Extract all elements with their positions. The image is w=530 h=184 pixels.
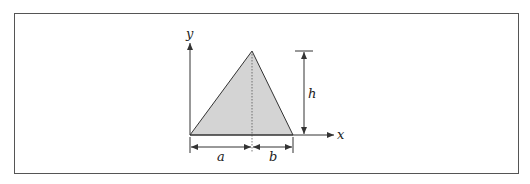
a-label: a: [217, 149, 225, 164]
triangle-shape: [190, 51, 293, 135]
triangle-diagram: y x h a b: [0, 0, 530, 184]
b-label: b: [269, 149, 277, 164]
y-axis-label: y: [185, 26, 194, 41]
x-axis-label: x: [337, 127, 345, 142]
height-label: h: [308, 86, 316, 101]
